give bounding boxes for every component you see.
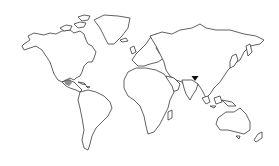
north-america <box>22 30 96 82</box>
world-map <box>0 0 279 166</box>
iceland <box>120 38 128 42</box>
southeast-asia-islands <box>202 96 236 108</box>
madagascar <box>168 110 172 120</box>
uk <box>130 46 136 54</box>
south-america <box>78 90 112 150</box>
new-zealand <box>254 132 262 142</box>
arctic-islands <box>60 15 90 31</box>
caribbean-islands <box>78 82 90 88</box>
tasmania <box>236 136 240 139</box>
australia <box>216 108 250 134</box>
india <box>182 80 198 100</box>
africa <box>124 68 174 134</box>
